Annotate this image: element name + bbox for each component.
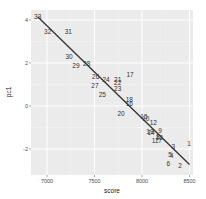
- point-label: 29: [72, 62, 80, 69]
- point-label: 33: [34, 13, 42, 20]
- point-label: 27: [91, 82, 99, 89]
- point-label: 30: [65, 53, 73, 60]
- point-label: 6: [167, 160, 171, 167]
- point-label: 24: [102, 76, 110, 83]
- y-axis-title: pc1: [5, 86, 13, 97]
- point-label: 3: [172, 143, 176, 150]
- x-tick-label: 8500: [183, 178, 195, 184]
- point-label: 23: [114, 85, 122, 92]
- x-axis-ticks: 7000750080008500: [41, 175, 196, 184]
- point-label: 10: [142, 115, 150, 122]
- point-label: 2: [178, 162, 182, 169]
- point-label: 16: [126, 100, 134, 107]
- y-axis-ticks: 420-2: [23, 17, 31, 152]
- point-label: 25: [99, 91, 107, 98]
- x-axis-title: score: [104, 187, 120, 194]
- y-tick-label: 0: [25, 103, 28, 109]
- point-label: 1: [187, 140, 191, 147]
- x-tick-label: 8000: [136, 178, 148, 184]
- point-label: 28: [83, 60, 91, 67]
- point-label: 7: [158, 137, 162, 144]
- y-tick-label: -2: [23, 146, 28, 152]
- x-tick-label: 7500: [88, 178, 100, 184]
- scatter-chart: 3332313029282624272517212223181620151012…: [0, 0, 206, 199]
- point-label: 4: [170, 152, 174, 159]
- point-label: 32: [44, 28, 52, 35]
- point-label: 31: [65, 28, 73, 35]
- y-tick-label: 4: [25, 17, 28, 23]
- point-label: 26: [92, 73, 100, 80]
- x-tick-label: 7000: [41, 178, 53, 184]
- y-tick-label: 2: [25, 60, 28, 66]
- point-label: 17: [126, 71, 134, 78]
- point-label: 20: [117, 110, 125, 117]
- point-label: 14: [147, 129, 155, 136]
- point-label: 12: [150, 119, 158, 126]
